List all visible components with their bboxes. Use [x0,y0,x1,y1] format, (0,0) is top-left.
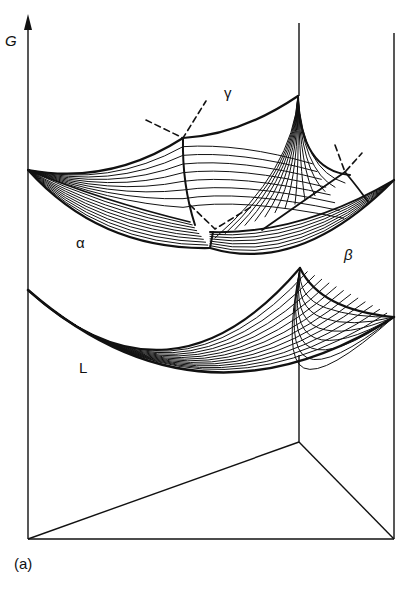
gamma-rim [28,96,298,174]
gamma-fan-line [298,96,335,187]
figure-caption: (a) [14,556,32,571]
liquid-isoline [28,272,307,352]
tangent-dashed-1 [146,101,206,138]
liquid-isoline [28,283,329,356]
beta-cusp-edge [345,172,368,202]
diagram-canvas [0,0,410,590]
axis-label-g: G [5,33,17,48]
liquid-isoline [28,276,314,353]
phase-label-beta: β [344,247,353,262]
frame-base-left [28,442,299,539]
tangent-dashed-3 [335,145,362,172]
frame-base-right [299,442,394,539]
phase-label-gamma: γ [224,85,232,100]
phase-label-liquid: L [79,360,87,375]
beta-isoline [210,180,394,247]
phase-label-alpha: α [76,235,85,250]
liquid-edge-ac [28,268,300,350]
gamma-fan-line [298,96,315,196]
axis-arrow-icon [24,14,32,30]
alpha-gamma-ridge [183,138,195,225]
